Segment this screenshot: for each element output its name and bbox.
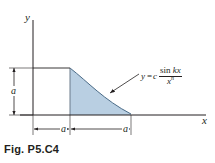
equation-coefficient: c	[153, 72, 157, 81]
x-axis-label: x	[202, 115, 207, 126]
equation-equals-sign: =	[147, 72, 152, 81]
dimension-label-vertical-a: a	[10, 86, 17, 96]
y-axis-label: y	[25, 12, 30, 23]
figure-container: y x a a a y = c sin kx xn Fig. P5.C4	[0, 0, 215, 163]
equation-annotation: y = c sin kx xn	[141, 66, 182, 86]
dimension-label-horizontal-a-second: a	[122, 124, 129, 134]
equation-fraction: sin kx xn	[159, 66, 182, 86]
equation-lhs: y	[141, 72, 145, 81]
equation-denominator-exponent: n	[171, 75, 174, 81]
equation-leader-line	[110, 74, 139, 93]
dimension-label-horizontal-a-first: a	[60, 124, 67, 134]
diagram-canvas	[0, 0, 215, 163]
equation-denominator: xn	[166, 77, 175, 87]
figure-caption: Fig. P5.C4	[4, 143, 59, 155]
equation-numerator-argument: kx	[173, 65, 181, 75]
equation-sin-function: sin	[160, 65, 171, 75]
